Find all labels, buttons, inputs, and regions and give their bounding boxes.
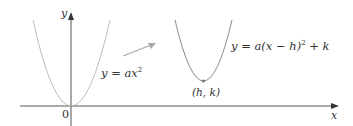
base-equation-exponent: 2 — [138, 66, 142, 74]
base-equation-text: y = ax — [101, 66, 138, 80]
shifted-parabola-equation: y = a(x − h)2 + k — [231, 39, 330, 53]
shifted-parabola-curve — [175, 20, 232, 81]
y-axis-label: y — [61, 7, 67, 20]
shifted-equation-suffix: + k — [306, 39, 330, 53]
origin-label: 0 — [62, 108, 69, 121]
x-axis-label: x — [331, 109, 337, 122]
diagram-canvas — [0, 0, 353, 126]
shifted-equation-text: y = a(x − h) — [231, 39, 301, 53]
vertex-label: (h, k) — [192, 86, 220, 98]
translation-arrow — [123, 45, 151, 56]
y-axis-arrow-icon — [68, 12, 74, 20]
vertex-point — [202, 79, 205, 82]
base-parabola-equation: y = ax2 — [101, 66, 142, 80]
